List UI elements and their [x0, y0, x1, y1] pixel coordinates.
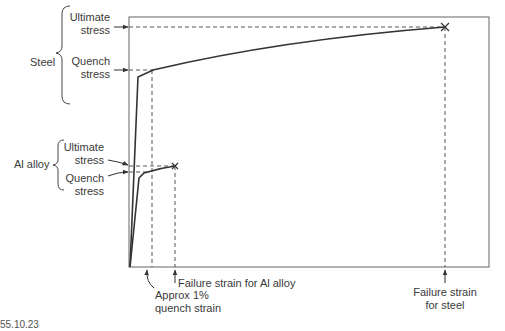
label-al-quench: Quench stress — [56, 172, 104, 198]
label-steel-failure-strain: Failure strain for steel — [405, 286, 485, 312]
figure-id: 55.10.23 — [0, 318, 39, 331]
label-line: Quench — [56, 172, 104, 185]
label-al-ultimate: Ultimate stress — [56, 141, 104, 167]
label-line: stress — [62, 68, 110, 81]
label-steel-ultimate: Ultimate stress — [62, 11, 110, 37]
label-line: quench strain — [155, 302, 221, 315]
label-line: Approx 1% — [155, 289, 221, 302]
label-line: Quench — [62, 55, 110, 68]
steel-curve — [130, 27, 445, 267]
label-al-alloy: Al alloy — [14, 158, 49, 171]
al-curve — [130, 166, 175, 267]
label-line: Failure strain — [405, 286, 485, 299]
label-line: stress — [56, 154, 104, 167]
label-line: Ultimate — [56, 141, 104, 154]
plot-frame — [129, 17, 489, 267]
label-line: Ultimate — [62, 11, 110, 24]
label-line: for steel — [405, 299, 485, 312]
label-al-failure-strain: Failure strain for Al alloy — [178, 277, 295, 290]
label-steel: Steel — [30, 56, 55, 69]
label-quench-strain: Approx 1% quench strain — [155, 289, 221, 315]
label-line: stress — [56, 185, 104, 198]
label-line: stress — [62, 24, 110, 37]
label-steel-quench: Quench stress — [62, 55, 110, 81]
